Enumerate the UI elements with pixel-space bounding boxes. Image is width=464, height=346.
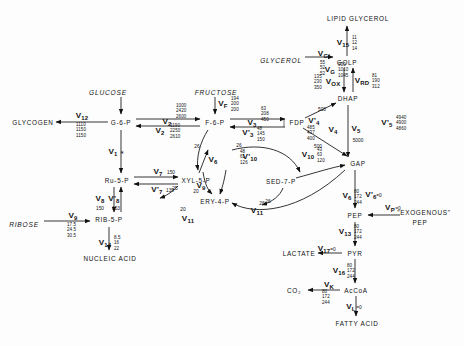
- flux-label-v1: V1: [108, 147, 117, 158]
- flux-label-v11b: V11: [182, 214, 194, 225]
- flux-label-v4: V4: [328, 125, 337, 136]
- node-g6p: G-6-P: [111, 119, 132, 126]
- node-dhap: DHAP: [338, 95, 359, 102]
- flux-label-vOX: VOX: [326, 77, 341, 88]
- node-ribose: RIBOSE: [9, 221, 39, 228]
- flux-label-v8p: V'8: [108, 194, 119, 205]
- flux-values-v10_vals: 43 63 120: [317, 147, 325, 163]
- inline-value-v8p_val: 153: [112, 206, 120, 211]
- flux-values-v6_vals: 80 172 244: [354, 189, 362, 205]
- flux-values-v14_vals: 8.5 16 22: [114, 235, 121, 251]
- inline-value-v5_val: 5000: [353, 138, 364, 143]
- flux-label-v5p: V'5: [381, 118, 392, 129]
- node-glycerol: GLYCEROL: [260, 57, 302, 64]
- node-pep: PEP: [348, 212, 363, 219]
- inline-value-v8_val: 150: [96, 206, 104, 211]
- inline-value-v4_curve_bot: 500: [314, 144, 322, 149]
- flux-label-v14: V14: [99, 238, 112, 249]
- flux-values-v5p_vals: 4940 4900 4860: [396, 115, 406, 131]
- flux-label-v6p: V'6: [365, 190, 376, 201]
- flux-label-v2b: V2: [155, 126, 164, 137]
- flux-values-v16_vals: 80 172 244: [347, 263, 355, 279]
- node-ery4p: ERY-4-P: [200, 198, 229, 205]
- flux-label-v3p: V'3: [242, 128, 253, 139]
- flux-label-v8: V8: [95, 194, 104, 205]
- flux-diagram-canvas: GLUCOSE FRUCTOSE GLYCEROL RIBOSE GLYCOGE…: [0, 0, 464, 346]
- node-exogenous-pep: "EXOGENOUS": [397, 209, 450, 216]
- flux-label-v13: V13: [339, 227, 352, 238]
- flux-label-v17: V17: [318, 244, 331, 255]
- inline-value-v6p_zero: =0: [376, 193, 381, 198]
- inline-value-v17_zero: =0: [330, 247, 335, 252]
- node-ru5p: Ru-5-P: [105, 177, 129, 184]
- flux-label-v15: V15: [337, 38, 350, 49]
- flux-label-v9: V9: [68, 211, 77, 222]
- flux-label-v16: V16: [333, 266, 346, 277]
- flux-values-v10p_vals: 48 61 126: [240, 149, 248, 165]
- node-fatty-acid: FATTY ACID: [336, 320, 379, 327]
- flux-label-v5: V5: [351, 124, 360, 135]
- node-glucose: GLUCOSE: [89, 89, 127, 96]
- node-gap: GAP: [350, 160, 366, 167]
- node-co2: CO₂: [287, 287, 301, 294]
- node-fructose: FRUCTOSE: [195, 89, 238, 96]
- node-nucleic-acid: NUCLEIC ACID: [83, 255, 136, 262]
- flux-values-vRD_vals: 81 190 312: [372, 73, 380, 89]
- node-fdp: FDP: [290, 119, 305, 126]
- flux-values-v3_vals: 63 208 450: [261, 106, 269, 122]
- flux-values-vOX_vals: 135 230 350: [314, 74, 322, 90]
- flux-values-v12_vals: 1110 1150 1150: [76, 122, 86, 138]
- flux-values-v3p_vals: 48 145 150: [257, 126, 265, 142]
- node-exogenous-pep-line2: PEP: [413, 219, 428, 226]
- flux-values-vF_vals: 194 200 200: [231, 96, 239, 112]
- node-f6p: F-6-P: [205, 119, 224, 126]
- inline-value-xyl_25: 25: [172, 186, 177, 191]
- flux-label-v12: V12: [76, 111, 89, 122]
- node-lactate: LACTATE: [283, 250, 316, 257]
- flux-values-vG_vals: 930 1010 1045: [338, 62, 348, 78]
- flux-label-v7: V7: [153, 167, 162, 178]
- flux-label-vL: VL: [346, 302, 355, 313]
- inline-value-v11_26: 26: [259, 201, 264, 206]
- inline-value-v7_val: 150: [167, 170, 175, 175]
- node-rib5p: RIB-5-P: [95, 216, 123, 223]
- node-accoa: AcCoA: [344, 287, 367, 294]
- flux-values-v15_vals: 11 12 14: [352, 35, 357, 51]
- flux-label-v7p: V'7: [151, 185, 162, 196]
- node-glycogen: GLYCOGEN: [12, 119, 53, 126]
- flux-label-vP: VP: [385, 203, 395, 214]
- inline-value-v4_curve_top: 500: [318, 107, 326, 112]
- inline-value-xyl_20: 20: [193, 189, 198, 194]
- inline-value-vL_zero: =0: [356, 305, 361, 310]
- flux-values-vK_vals: 80 172 244: [322, 289, 330, 305]
- node-pyr: PYR: [347, 250, 362, 257]
- inline-value-ery_20: 20: [180, 207, 185, 212]
- flux-label-vGL: VGL: [318, 49, 332, 60]
- inline-value-vP_zero: =0: [395, 206, 400, 211]
- flux-values-v13_vals: 80 172 244: [354, 224, 362, 240]
- node-lipid-glycerol: LIPID GLYCEROL: [327, 15, 389, 22]
- flux-values-v4p_vals: 485 437 400: [307, 125, 315, 141]
- flux-values-v9_vals: 17.5 24.5 30.5: [67, 222, 76, 238]
- flux-values-v2b_vals: 1190 2250 2610: [170, 123, 180, 139]
- flux-values-v2a_vals: 1000 2420 2600: [176, 103, 186, 119]
- flux-label-vG: VG: [325, 65, 335, 76]
- flux-label-vRD: VRD: [355, 76, 370, 87]
- flux-label-v11: V11: [251, 206, 263, 217]
- inline-value-f6p_26: 26: [236, 143, 241, 148]
- flux-label-v6small: V6: [208, 155, 217, 166]
- inline-value-v1_dot: ∗: [120, 150, 124, 155]
- flux-label-v6: V6: [342, 191, 351, 202]
- inline-value-gap_26: 26: [265, 199, 270, 204]
- node-sed7p: SED-7-P: [266, 178, 296, 185]
- inline-value-f6p_left_26: 26: [194, 144, 199, 149]
- pathway-arrow-layer: [0, 0, 464, 346]
- flux-label-vF: VF: [218, 99, 227, 110]
- flux-label-v10: V10: [302, 150, 315, 161]
